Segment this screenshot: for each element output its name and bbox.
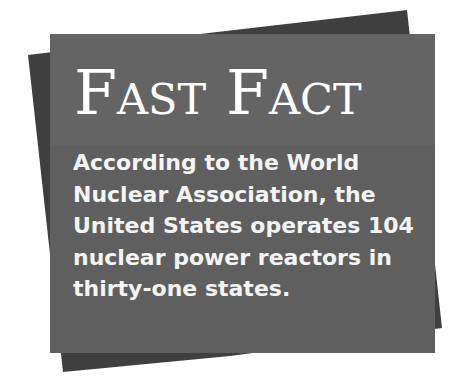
body-line: According to the World: [73, 147, 423, 179]
fast-fact-card: Fast Fact According to the World Nuclear…: [50, 34, 435, 353]
card-title: Fast Fact: [74, 60, 362, 126]
body-line: Nuclear Association, the: [73, 179, 423, 211]
body-line: United States operates 104: [73, 210, 423, 242]
body-line: nuclear power reactors in: [73, 242, 423, 274]
card-body: According to the World Nuclear Associati…: [73, 147, 423, 305]
body-line: thirty-one states.: [73, 273, 423, 305]
